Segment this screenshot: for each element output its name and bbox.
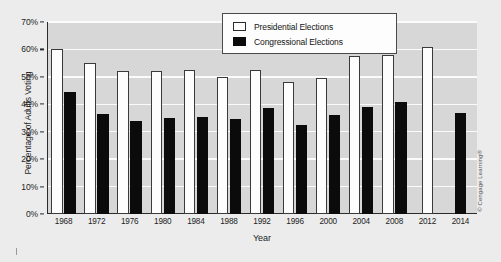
legend-label-presidential: Presidential Elections [254,22,333,32]
legend-swatch-presidential-icon [233,22,246,31]
legend-item-congressional: Congressional Elections [233,34,396,49]
bar-presidential-2012 [422,47,434,214]
bar-congressional-2014 [455,113,467,214]
bar-congressional-1968 [64,92,76,214]
x-tick-label: 2000 [319,217,336,226]
y-tick-mark [40,104,44,105]
x-tick-label: 2012 [419,217,436,226]
legend-item-presidential: Presidential Elections [233,19,396,34]
y-tick-mark [40,213,44,214]
copyright-credit: © Cengage Learning® [477,150,483,212]
bar-presidential-2004 [349,56,361,214]
y-axis-title: Percentage of Adults Voting [23,43,33,203]
bar-presidential-1992 [250,70,262,214]
bar-congressional-2000 [329,115,341,214]
bar-presidential-1980 [151,71,163,214]
x-axis: 1968197219761980198419881992199620002004… [47,215,477,229]
y-tick-mark [40,49,44,50]
bar-presidential-1968 [51,49,63,214]
x-tick-label: 1976 [121,217,138,226]
bar-presidential-1976 [117,71,129,214]
legend-swatch-congressional-icon [233,37,246,46]
bar-presidential-1988 [217,77,229,214]
y-axis: 0%10%20%30%40%50%60%70% [0,22,44,214]
x-tick-label: 1988 [220,217,237,226]
x-tick-label: 1984 [187,217,204,226]
y-tick-mark [40,21,44,22]
bar-congressional-1988 [230,119,242,214]
bar-presidential-1996 [283,82,295,214]
bar-presidential-1972 [84,63,96,214]
y-tick-label: 0% [26,209,38,219]
legend-label-congressional: Congressional Elections [254,37,343,47]
y-tick-mark [40,131,44,132]
y-tick-mark [40,186,44,187]
x-tick-label: 1992 [253,217,270,226]
bar-congressional-1992 [263,108,275,214]
bar-presidential-2000 [316,78,328,214]
y-tick-mark [40,76,44,77]
bar-presidential-1984 [184,70,196,214]
bar-presidential-2008 [382,55,394,214]
x-tick-label: 1996 [286,217,303,226]
x-axis-title: Year [47,233,477,243]
x-tick-label: 1968 [55,217,72,226]
bar-congressional-2008 [395,102,407,214]
page-artifact-mark [16,248,17,255]
x-tick-label: 1980 [154,217,171,226]
x-tick-label: 2008 [386,217,403,226]
bar-congressional-1976 [130,121,142,214]
bar-congressional-1996 [296,125,308,214]
x-tick-label: 1972 [88,217,105,226]
bar-congressional-1984 [197,117,209,214]
legend: Presidential Elections Congressional Ele… [222,13,397,54]
bar-congressional-1972 [97,114,109,214]
y-tick-mark [40,159,44,160]
bar-congressional-2004 [362,107,374,214]
bar-congressional-1980 [164,118,176,214]
chart-figure: 0%10%20%30%40%50%60%70% Percentage of Ad… [0,0,501,262]
x-tick-label: 2004 [353,217,370,226]
y-tick-label: 70% [21,17,38,27]
x-tick-label: 2014 [452,217,469,226]
